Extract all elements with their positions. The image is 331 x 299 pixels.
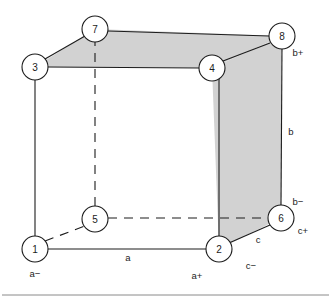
vertex-label-3: 3: [32, 62, 38, 73]
vertex-node-3[interactable]: 3: [22, 54, 48, 80]
label-b-minus: b−: [293, 196, 304, 207]
label-b-plus: b+: [293, 47, 304, 58]
shaded-faces: [35, 29, 282, 249]
vertex-label-5: 5: [92, 214, 98, 225]
label-a-minus: a−: [30, 268, 41, 279]
vertex-label-1: 1: [32, 244, 38, 255]
label-b: b: [288, 126, 293, 137]
vertex-node-5[interactable]: 5: [82, 206, 108, 232]
label-a-plus: a+: [192, 270, 203, 281]
vertex-node-2[interactable]: 2: [206, 236, 232, 262]
vertex-label-8: 8: [279, 31, 285, 42]
label-a: a: [125, 252, 131, 263]
vertex-node-8[interactable]: 8: [269, 23, 295, 49]
label-c: c: [256, 234, 261, 245]
vertex-node-6[interactable]: 6: [268, 205, 294, 231]
vertex-node-1[interactable]: 1: [22, 236, 48, 262]
label-c-plus: c+: [298, 225, 309, 236]
label-c-minus: c−: [246, 260, 257, 271]
vertex-node-4[interactable]: 4: [199, 55, 225, 81]
vertex-label-7: 7: [92, 24, 98, 35]
vertex-label-2: 2: [216, 244, 222, 255]
cube-diagram: 1 2 3 4 5 6 7: [0, 0, 331, 299]
vertex-label-4: 4: [209, 63, 215, 74]
vertex-node-7[interactable]: 7: [82, 16, 108, 42]
vertex-label-6: 6: [278, 213, 284, 224]
edge-1-5: [45, 226, 85, 241]
cube-diagram-canvas: 1 2 3 4 5 6 7: [0, 0, 331, 299]
